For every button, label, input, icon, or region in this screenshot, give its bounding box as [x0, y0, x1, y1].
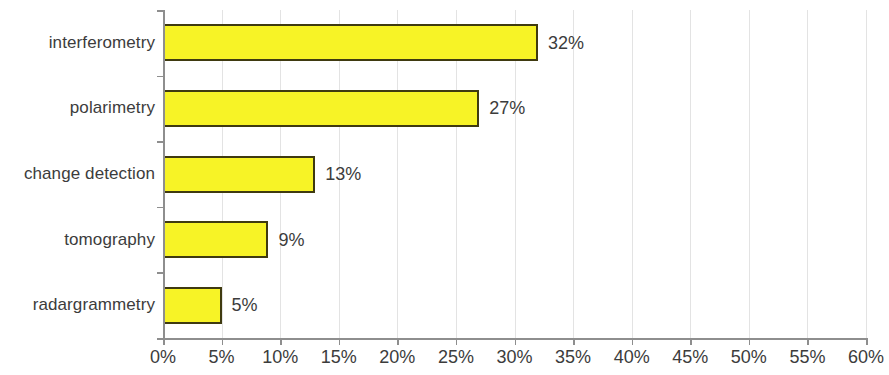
category-label: change detection: [0, 165, 155, 182]
gridline: [573, 10, 574, 338]
bar-chart: interferometry polarimetry change detect…: [0, 0, 889, 375]
value-axis-tick: [749, 338, 751, 345]
value-axis-tick-label: 0%: [150, 348, 176, 366]
value-axis-tick: [456, 338, 458, 345]
value-axis-tick: [807, 338, 809, 345]
gridline: [866, 10, 867, 338]
bar: [163, 24, 538, 61]
bar-value-label: 9%: [278, 231, 304, 249]
value-axis-tick-label: 40%: [614, 348, 650, 366]
bar-value-label: 27%: [489, 99, 525, 117]
bar: [163, 90, 479, 127]
value-axis-tick-label: 20%: [379, 348, 415, 366]
value-axis-tick-label: 55%: [789, 348, 825, 366]
bar: [163, 156, 315, 193]
category-label: polarimetry: [0, 99, 155, 116]
value-axis-tick-label: 45%: [672, 348, 708, 366]
value-axis-tick: [163, 338, 165, 345]
value-axis-tick-label: 30%: [496, 348, 532, 366]
category-label: radargrammetry: [0, 296, 155, 313]
bar: [163, 287, 222, 324]
value-axis-tick: [280, 338, 282, 345]
bar-value-label: 13%: [325, 165, 361, 183]
gridline: [807, 10, 808, 338]
value-axis-tick-label: 25%: [438, 348, 474, 366]
value-axis-tick-label: 10%: [262, 348, 298, 366]
category-axis-labels: interferometry polarimetry change detect…: [0, 10, 155, 338]
value-axis-labels: 0%5%10%15%20%25%30%35%40%45%50%55%60%: [0, 348, 889, 375]
value-axis-tick: [632, 338, 634, 345]
bar-value-label: 32%: [548, 34, 584, 52]
plot-area: 32%27%13%9%5%: [163, 10, 866, 338]
value-axis-tick-label: 60%: [848, 348, 884, 366]
value-axis-tick: [339, 338, 341, 345]
category-label: interferometry: [0, 34, 155, 51]
value-axis-tick-label: 35%: [555, 348, 591, 366]
value-axis-tick: [690, 338, 692, 345]
gridline: [632, 10, 633, 338]
value-axis-tick-label: 5%: [209, 348, 235, 366]
gridline: [690, 10, 691, 338]
value-axis-tick: [866, 338, 868, 345]
value-axis-tick: [222, 338, 224, 345]
value-axis-tick: [397, 338, 399, 345]
value-axis-tick-label: 50%: [731, 348, 767, 366]
bar: [163, 221, 268, 258]
category-axis-line: [163, 10, 165, 339]
category-label: tomography: [0, 231, 155, 248]
value-axis-tick: [515, 338, 517, 345]
bar-value-label: 5%: [232, 296, 258, 314]
gridline: [749, 10, 750, 338]
value-axis-tick-label: 15%: [321, 348, 357, 366]
value-axis-tick: [573, 338, 575, 345]
